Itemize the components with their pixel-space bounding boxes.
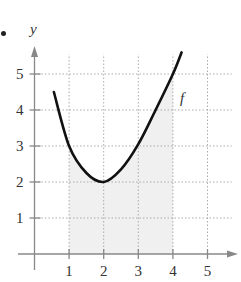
svg-text:4: 4 — [169, 263, 177, 279]
svg-text:3: 3 — [135, 263, 143, 279]
chart: 1234512345 y f — [0, 0, 241, 282]
shaded-region — [69, 74, 173, 254]
svg-text:4: 4 — [16, 102, 24, 118]
svg-text:5: 5 — [204, 263, 212, 279]
svg-text:1: 1 — [16, 210, 24, 226]
svg-text:3: 3 — [16, 138, 24, 154]
y-axis-label: y — [28, 21, 37, 37]
svg-text:2: 2 — [16, 174, 24, 190]
curve-label-f: f — [180, 90, 186, 106]
svg-text:5: 5 — [16, 66, 24, 82]
svg-text:1: 1 — [65, 263, 73, 279]
svg-text:2: 2 — [100, 263, 108, 279]
